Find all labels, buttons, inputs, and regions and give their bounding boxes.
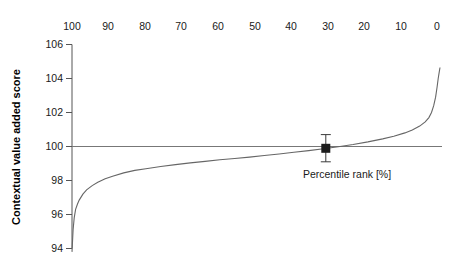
y-tick-label: 96 bbox=[51, 208, 63, 220]
x-axis-tick-labels: 100 90 80 70 60 50 40 30 20 10 0 bbox=[63, 20, 440, 32]
highlighted-school-point[interactable] bbox=[321, 135, 331, 162]
y-axis-tick-labels: 106 104 102 100 98 96 94 bbox=[45, 38, 63, 254]
y-tick-label: 104 bbox=[45, 72, 63, 84]
x-tick-label: 0 bbox=[434, 20, 440, 32]
y-tick-label: 102 bbox=[45, 106, 63, 118]
value-added-score-chart: 100 90 80 70 60 50 40 30 20 10 0 106 104… bbox=[0, 0, 468, 275]
y-tick-label: 100 bbox=[45, 140, 63, 152]
x-axis-title: Percentile rank [%] bbox=[303, 168, 391, 180]
x-tick-label: 10 bbox=[395, 20, 407, 32]
y-tick-label: 106 bbox=[45, 38, 63, 50]
x-tick-label: 80 bbox=[139, 20, 151, 32]
x-tick-label: 60 bbox=[212, 20, 224, 32]
x-tick-label: 100 bbox=[63, 20, 81, 32]
x-tick-label: 90 bbox=[102, 20, 114, 32]
y-axis-tick-marks bbox=[66, 45, 72, 249]
y-tick-label: 98 bbox=[51, 174, 63, 186]
x-tick-label: 20 bbox=[358, 20, 370, 32]
value-added-score-curve bbox=[72, 68, 440, 252]
y-axis-title: Contextual value added score bbox=[10, 69, 22, 225]
x-tick-label: 30 bbox=[322, 20, 334, 32]
y-tick-label: 94 bbox=[51, 242, 63, 254]
chart-container: 100 90 80 70 60 50 40 30 20 10 0 106 104… bbox=[0, 0, 468, 275]
x-tick-label: 50 bbox=[249, 20, 261, 32]
x-tick-label: 70 bbox=[175, 20, 187, 32]
x-tick-label: 40 bbox=[285, 20, 297, 32]
data-point-marker[interactable] bbox=[321, 144, 330, 153]
